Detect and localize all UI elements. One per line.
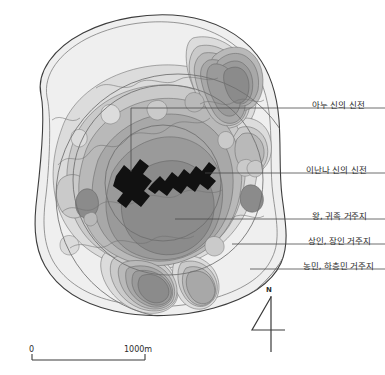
scale-bar [32, 354, 145, 360]
scale-bar-start-label: 0 [29, 345, 34, 354]
annotation-inanna-temple-label: 이난나 신의 신전 [306, 165, 367, 176]
scale-bar-end-label: 1000m [124, 345, 152, 354]
uruk-site-map [0, 0, 385, 375]
annotation-farmer-lower-label: 농민, 하층민 거주지 [303, 261, 374, 272]
north-arrow [252, 296, 285, 352]
annotation-merchant-artisan-label: 상인, 장인 거주지 [308, 236, 371, 247]
annotation-royal-noble-label: 왕, 귀족 거주지 [312, 211, 367, 222]
annotation-anu-temple-label: 아누 신의 신전 [312, 100, 365, 111]
north-arrow-label: N [266, 286, 272, 294]
